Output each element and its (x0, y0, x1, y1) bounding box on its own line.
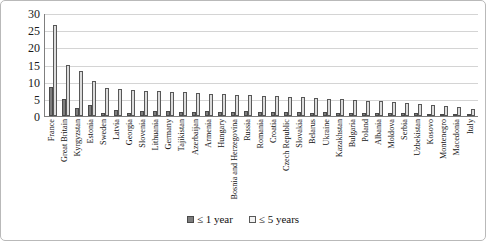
bar-series-2 (340, 99, 344, 116)
legend-item[interactable]: ≤ 1 year (187, 213, 233, 225)
bar-series-2 (379, 101, 383, 116)
bar-group (111, 14, 124, 116)
bar-series-2 (444, 106, 448, 116)
x-axis-label-slot: Bulgaria (346, 118, 359, 203)
bar-group (229, 14, 242, 116)
x-axis-label-slot: France (45, 118, 58, 203)
bar-group (85, 14, 98, 116)
y-axis-tick-label: 15 (28, 60, 40, 72)
bar-group (307, 14, 320, 116)
bar-group (399, 14, 412, 116)
bar-chart-figure: 051015202530 FranceGreat BritainKyrgyzst… (0, 0, 486, 241)
y-axis-tick-label: 10 (28, 77, 40, 89)
x-axis-label-slot: Macedonia (451, 118, 464, 203)
x-axis-tick-label: Belarus (309, 119, 317, 144)
x-axis-tick-label: Serbia (401, 119, 409, 140)
bar-group (164, 14, 177, 116)
x-axis-tick-label: Poland (362, 119, 370, 142)
bar-group (451, 14, 464, 116)
y-axis: 051015202530 (15, 7, 40, 117)
x-axis-label-slot: Lithuania (150, 118, 163, 203)
y-axis-tick-label: 0 (34, 111, 40, 123)
bar-series-2 (353, 100, 357, 116)
bar-group (98, 14, 111, 116)
bar-series-2 (418, 104, 422, 116)
x-axis-label-slot: Great Britain (58, 118, 71, 203)
bar-series-2 (288, 97, 292, 116)
bar-series-2 (262, 96, 266, 116)
x-axis-tick-label: Georgia (126, 119, 134, 145)
x-axis-label-slot: Czech Republic (281, 118, 294, 203)
bar-group (124, 14, 137, 116)
bar-group (151, 14, 164, 116)
x-axis-tick-label: Kosovo (427, 119, 435, 144)
x-axis-label-slot: Albania (372, 118, 385, 203)
x-axis-label-slot: Moldova (385, 118, 398, 203)
x-axis-tick-label: Estonia (87, 119, 95, 144)
x-axis-label-slot: Armenia (202, 118, 215, 203)
bar-series-2 (144, 91, 148, 116)
x-axis-label-slot: Uzbekistan (412, 118, 425, 203)
x-axis-tick-label: Ukraine (322, 119, 330, 145)
bar-group (216, 14, 229, 116)
bar-series-2 (157, 91, 161, 116)
x-axis-tick-label: Sweden (100, 119, 108, 145)
legend-item[interactable]: ≤ 5 years (249, 213, 299, 225)
x-axis-label-slot: Estonia (84, 118, 97, 203)
bar-group (360, 14, 373, 116)
x-axis-label-slot: Germany (163, 118, 176, 203)
y-axis-tick-label: 5 (34, 94, 40, 106)
x-axis-tick-label: Armenia (205, 119, 213, 148)
bar-group (373, 14, 386, 116)
x-axis-tick-label: Kyrgyzstan (74, 119, 82, 157)
bar-series-2 (196, 93, 200, 116)
x-axis-tick-label: Bulgaria (349, 119, 357, 147)
series-2-swatch (249, 216, 256, 223)
x-axis-label-slot: Russia (241, 118, 254, 203)
x-axis-tick-label: Russia (244, 119, 252, 141)
x-axis-label-slot: Sweden (97, 118, 110, 203)
bar-series-2 (105, 88, 109, 116)
x-axis-tick-label: Hungary (218, 119, 226, 148)
bar-group (177, 14, 190, 116)
bar-group (425, 14, 438, 116)
x-axis-tick-label: Great Britain (61, 119, 69, 162)
bar-series-container (45, 14, 478, 116)
bar-series-2 (248, 95, 252, 116)
x-axis-label-slot: Italy (464, 118, 477, 203)
bar-group (346, 14, 359, 116)
bar-series-2 (471, 109, 475, 116)
bar-series-2 (457, 107, 461, 116)
x-axis-label-slot: Bosnia and Herzegovina (228, 118, 241, 203)
x-axis-tick-label: Croatia (270, 119, 278, 143)
bar-group (386, 14, 399, 116)
bar-group (438, 14, 451, 116)
x-axis-tick-label: Moldova (388, 119, 396, 149)
x-axis-label-slot: Ukraine (320, 118, 333, 203)
x-axis-label-slot: Slovakia (294, 118, 307, 203)
bar-group (137, 14, 150, 116)
chart-legend: ≤ 1 year≤ 5 years (1, 213, 485, 225)
x-axis-label-slot: Montenegro (438, 118, 451, 203)
x-axis-label-slot: Croatia (268, 118, 281, 203)
bar-group (464, 14, 477, 116)
y-axis-tick-label: 25 (28, 25, 40, 37)
bar-series-2 (431, 105, 435, 116)
x-axis-tick-label: Lithuania (152, 119, 160, 150)
plot-area (44, 14, 478, 117)
x-axis-tick-label: France (47, 119, 55, 141)
legend-label: ≤ 1 year (197, 213, 233, 225)
bar-group (190, 14, 203, 116)
x-axis-tick-label: Montenegro (440, 119, 448, 159)
x-axis-tick-label: Uzbekistan (414, 119, 422, 156)
bar-group (281, 14, 294, 116)
x-axis-tick-label: Slovakia (296, 119, 304, 148)
x-axis-tick-label: Slovenia (139, 119, 147, 148)
x-axis-label-slot: Latvia (110, 118, 123, 203)
bar-series-2 (131, 90, 135, 116)
legend-label: ≤ 5 years (259, 213, 299, 225)
x-axis-label-slot: Romania (255, 118, 268, 203)
bar-group (59, 14, 72, 116)
bar-group (333, 14, 346, 116)
bar-series-2 (275, 96, 279, 116)
